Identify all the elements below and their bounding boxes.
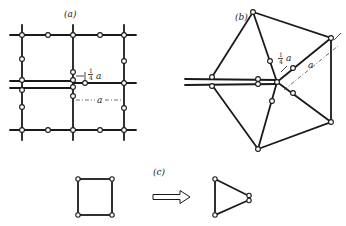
panel-c-label: (c) xyxy=(153,167,166,177)
spoke-lower-right xyxy=(277,82,331,122)
crack-face-upper xyxy=(185,79,277,80)
dim-quarter-a-label: a xyxy=(96,71,101,81)
panel-a-label: (a) xyxy=(64,9,77,19)
dim-a-label: a xyxy=(97,95,102,105)
triangle-element xyxy=(215,179,249,215)
crack-tip-element-diagram: (a) 1 4 xyxy=(0,0,346,226)
panel-b-label: (b) xyxy=(235,12,248,22)
dim-quarter-a-label: a xyxy=(286,53,291,63)
panel-a: (a) 1 4 xyxy=(10,9,136,140)
crack-face-lower xyxy=(185,84,277,85)
panel-b: (b) 1 4 a a xyxy=(185,10,341,152)
transform-arrow-icon xyxy=(153,191,190,204)
dim-a-label: a xyxy=(308,60,313,70)
spoke-bottom xyxy=(258,82,277,149)
svg-text:1: 1 xyxy=(279,51,283,58)
svg-text:1: 1 xyxy=(89,67,93,74)
svg-text:4: 4 xyxy=(279,58,283,65)
panel-c: (c) xyxy=(76,167,251,217)
spoke-top xyxy=(253,12,277,82)
svg-text:4: 4 xyxy=(89,74,93,81)
square-element xyxy=(78,179,112,215)
